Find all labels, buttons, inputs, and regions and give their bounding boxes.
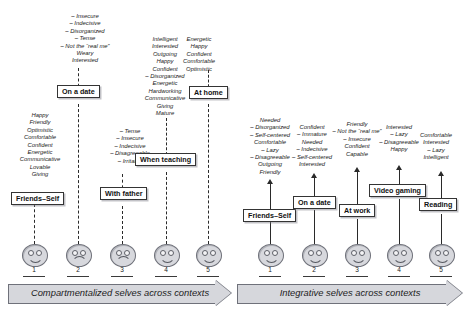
context-box-right-5[interactable]: Reading bbox=[419, 198, 457, 211]
axis-tick bbox=[303, 276, 325, 277]
face-right-3 bbox=[345, 244, 371, 267]
face-right-2 bbox=[302, 244, 328, 267]
banner-left: Compartmentalized selves across contexts bbox=[8, 280, 232, 306]
attribute-word: Giving bbox=[124, 103, 206, 110]
context-box-right-2[interactable]: On a date bbox=[293, 196, 336, 209]
attribute-word: – Tense bbox=[42, 35, 128, 42]
banner-label-right: Integrative selves across contexts bbox=[237, 284, 465, 302]
attribute-word: Comfortable bbox=[3, 134, 77, 141]
face-right-1 bbox=[258, 244, 284, 267]
face-number-right-5: 5 bbox=[429, 266, 453, 273]
attribute-word: – Disorganized bbox=[42, 28, 128, 35]
face-right-4 bbox=[387, 244, 413, 267]
attribute-word: – Indecisive bbox=[42, 20, 128, 27]
smile-mouth-icon bbox=[28, 255, 43, 263]
banner-label-left: Compartmentalized selves across contexts bbox=[8, 284, 248, 302]
attribute-word: Friendly bbox=[3, 119, 77, 126]
attribute-word: Energetic bbox=[3, 149, 77, 156]
attribute-word: Communicative bbox=[3, 156, 77, 163]
stem-left-5b bbox=[208, 104, 209, 244]
axis-tick bbox=[111, 276, 133, 277]
attribute-word: Energetic bbox=[168, 36, 230, 43]
axis-tick bbox=[388, 276, 410, 277]
stem-left-1 bbox=[34, 204, 35, 244]
attribute-word: Interested bbox=[279, 161, 345, 168]
face-number-left-5: 5 bbox=[196, 266, 220, 273]
attribute-word: Intelligent bbox=[407, 154, 465, 161]
attribute-word: – Not the “real me” bbox=[42, 43, 128, 50]
eye-icon bbox=[124, 250, 130, 256]
axis-tick bbox=[259, 276, 281, 277]
frown-mouth-icon bbox=[116, 256, 131, 264]
attribute-word: Confident bbox=[168, 51, 230, 58]
face-number-right-2: 2 bbox=[302, 266, 326, 273]
smile-mouth-icon bbox=[264, 255, 279, 263]
face-number-left-4: 4 bbox=[154, 266, 178, 273]
stem-left-2b bbox=[78, 104, 79, 244]
eye-icon bbox=[80, 250, 86, 256]
stem-left-3b bbox=[122, 206, 123, 244]
attribute-word: Lovable bbox=[3, 164, 77, 171]
stem-right-4b bbox=[399, 199, 400, 244]
context-box-right-3[interactable]: At work bbox=[339, 204, 375, 217]
attribute-stack-right-5: ComfortableInterested– LazyIntelligent bbox=[407, 132, 465, 162]
integrative-panel: Needed– Disorganized– Self-centeredComfo… bbox=[233, 0, 465, 321]
face-left-4 bbox=[154, 244, 180, 267]
face-left-5 bbox=[196, 244, 222, 267]
smile-mouth-icon bbox=[351, 255, 366, 263]
context-box-right-1[interactable]: Friends–Self bbox=[243, 209, 296, 222]
face-right-5 bbox=[429, 244, 455, 267]
attribute-word: – Insecure bbox=[93, 135, 167, 142]
face-left-2 bbox=[66, 244, 92, 267]
smile-mouth-icon bbox=[393, 255, 408, 263]
face-left-1 bbox=[22, 244, 48, 267]
attribute-word: Interested bbox=[367, 124, 431, 131]
axis-tick bbox=[23, 276, 45, 277]
face-number-right-4: 4 bbox=[387, 266, 411, 273]
attribute-stack-left-2: – Insecure– Indecisive– Disorganized– Te… bbox=[42, 13, 128, 65]
context-box-left-3[interactable]: With father bbox=[100, 187, 147, 200]
context-box-left-1[interactable]: Friends–Self bbox=[11, 192, 64, 205]
frown-mouth-icon bbox=[72, 256, 87, 264]
context-box-left-2[interactable]: On a date bbox=[57, 85, 100, 98]
context-box-left-5[interactable]: At home bbox=[189, 86, 228, 99]
eye-icon bbox=[72, 250, 78, 256]
stem-right-2 bbox=[314, 178, 315, 196]
stem-right-5b bbox=[441, 214, 442, 244]
attribute-word: Happy bbox=[3, 112, 77, 119]
stem-left-4b bbox=[166, 172, 167, 244]
face-number-left-1: 1 bbox=[22, 266, 46, 273]
face-number-right-3: 3 bbox=[345, 266, 369, 273]
stem-right-4 bbox=[399, 170, 400, 184]
attribute-word: Comfortable bbox=[168, 58, 230, 65]
smile-mouth-icon bbox=[435, 255, 450, 263]
eye-icon bbox=[116, 250, 122, 256]
smile-mouth-icon bbox=[160, 255, 175, 263]
stem-right-1b bbox=[270, 222, 271, 244]
attribute-word: Confident bbox=[3, 142, 77, 149]
attribute-word: – Lazy bbox=[407, 147, 465, 154]
attribute-word: Interested bbox=[42, 57, 128, 64]
attribute-word: – Indecisive bbox=[93, 143, 167, 150]
attribute-word: Happy bbox=[168, 43, 230, 50]
axis-tick bbox=[67, 276, 89, 277]
attribute-word: Optimistic bbox=[168, 66, 230, 73]
attribute-word: – Disorganized bbox=[124, 73, 206, 80]
attribute-word: Mature bbox=[124, 110, 206, 117]
attribute-stack-left-5: EnergeticHappyConfidentComfortableOptimi… bbox=[168, 36, 230, 73]
stem-right-3 bbox=[357, 172, 358, 204]
axis-tick bbox=[197, 276, 219, 277]
face-number-left-3: 3 bbox=[110, 266, 134, 273]
attribute-word: – Tense bbox=[93, 128, 167, 135]
context-box-right-4[interactable]: Video gaming bbox=[369, 184, 426, 197]
stem-right-5 bbox=[441, 176, 442, 198]
stem-right-1 bbox=[270, 184, 271, 209]
context-box-left-4[interactable]: When teaching bbox=[135, 153, 196, 166]
attribute-word: – Insecure bbox=[42, 13, 128, 20]
face-left-3 bbox=[110, 244, 136, 267]
attribute-word: Friendly bbox=[231, 169, 309, 176]
smile-mouth-icon bbox=[308, 255, 323, 263]
attribute-word: Interested bbox=[407, 139, 465, 146]
axis-tick bbox=[346, 276, 368, 277]
face-number-right-1: 1 bbox=[258, 266, 282, 273]
